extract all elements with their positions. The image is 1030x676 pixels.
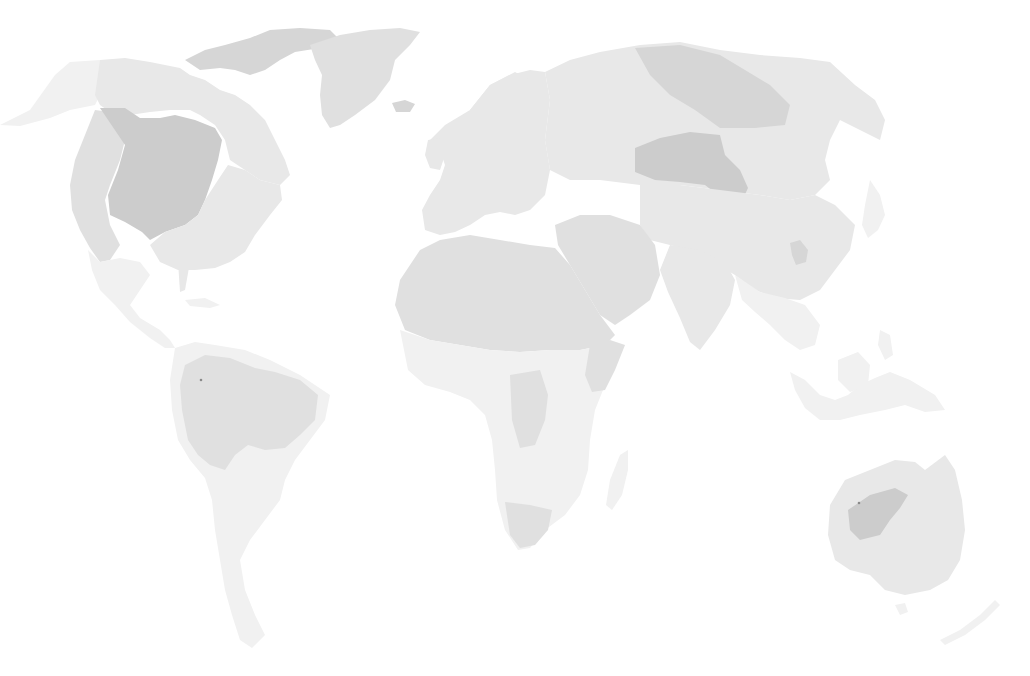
- world-map-svg: [0, 0, 1030, 676]
- map-marker: [200, 379, 203, 382]
- world-map: [0, 0, 1030, 676]
- map-marker: [858, 502, 861, 505]
